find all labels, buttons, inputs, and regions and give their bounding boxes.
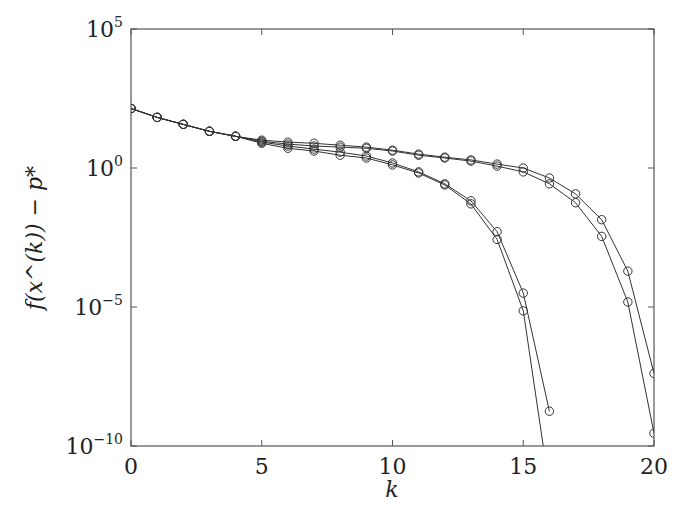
y-tick-label: 105 — [86, 14, 123, 42]
x-tick-labels: 05101520 — [124, 454, 668, 479]
y-tick-label: 100 — [86, 153, 123, 181]
y-axis-label: f(x^(k)) − p* — [22, 166, 47, 312]
line-series-1 — [127, 104, 658, 377]
y-tick-label: 10−10 — [65, 431, 123, 459]
x-tick-label: 5 — [255, 454, 269, 479]
x-tick-label: 0 — [124, 454, 138, 479]
x-tick-label: 10 — [379, 454, 407, 479]
x-tick-label: 20 — [640, 454, 668, 479]
x-axis-label: k — [385, 477, 398, 502]
plot-frame — [131, 29, 654, 446]
axis-ticks — [131, 29, 654, 446]
y-tick-label: 10−5 — [74, 292, 123, 320]
convergence-chart: 05101520 10510010−510−10 k f(x^(k)) − p* — [0, 0, 682, 512]
y-tick-labels: 10510010−510−10 — [65, 14, 123, 459]
data-series — [127, 104, 658, 487]
x-tick-label: 15 — [509, 454, 537, 479]
